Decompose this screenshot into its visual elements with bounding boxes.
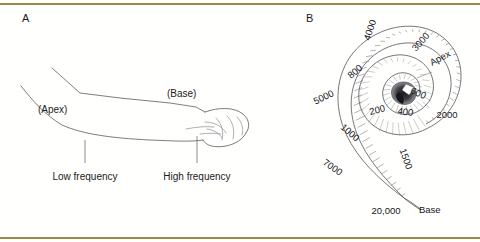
freq-label-600: 600 bbox=[409, 84, 428, 101]
figure-root: A B (Apex) (Base) Low frequency High fre… bbox=[0, 0, 480, 242]
panel-a-labels: (Apex) (Base) Low frequency High frequen… bbox=[0, 30, 250, 230]
panel-b-labels: 4000 3000 2000 1500 1000 800 600 400 200… bbox=[280, 6, 480, 236]
top-rule bbox=[0, 3, 480, 5]
bottom-rule bbox=[0, 237, 480, 239]
freq-label-20000: 20,000 bbox=[371, 205, 400, 216]
base-label-b: Base bbox=[419, 204, 441, 215]
freq-label-200: 200 bbox=[368, 102, 386, 117]
apex-label-a: (Apex) bbox=[38, 104, 67, 115]
high-frequency-label: High frequency bbox=[163, 171, 230, 182]
low-frequency-label: Low frequency bbox=[52, 171, 117, 182]
freq-label-800: 800 bbox=[345, 62, 364, 81]
freq-label-400: 400 bbox=[397, 105, 414, 118]
freq-label-2000: 2000 bbox=[436, 109, 457, 120]
freq-label-1000: 1000 bbox=[339, 121, 362, 143]
freq-label-5000: 5000 bbox=[312, 87, 336, 106]
freq-label-7000: 7000 bbox=[321, 157, 345, 178]
freq-label-3000: 3000 bbox=[409, 30, 431, 53]
base-label-a: (Base) bbox=[167, 88, 196, 99]
freq-label-4000: 4000 bbox=[361, 18, 378, 42]
panel-a-letter: A bbox=[22, 12, 30, 24]
apex-label-b: Apex bbox=[428, 48, 453, 68]
freq-label-1500: 1500 bbox=[398, 147, 416, 171]
